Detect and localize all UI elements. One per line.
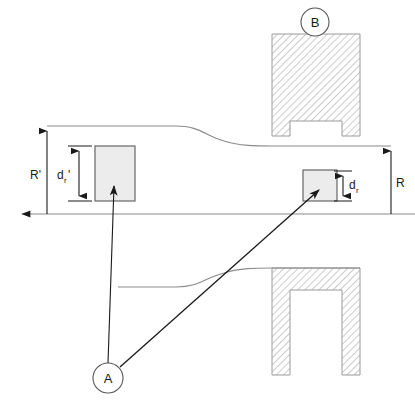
dimension-dr-prime-sublabel: r xyxy=(64,176,67,185)
profile-upper-wall xyxy=(47,126,391,146)
dimension-dr: d r xyxy=(334,171,359,201)
callout-a[interactable]: A xyxy=(93,363,123,393)
callout-b[interactable]: B xyxy=(301,8,329,36)
dimension-dr-label: d xyxy=(349,178,356,192)
dimension-r-prime-label: R' xyxy=(30,168,41,182)
measurement-boxes-group xyxy=(95,146,337,201)
dimension-r-label: R xyxy=(396,176,405,190)
dimension-r: R xyxy=(391,151,405,214)
hatched-solids-group xyxy=(272,34,360,375)
nozzle-cross-section-diagram: R' d r ' d r R xyxy=(0,0,415,407)
dimension-r-prime: R' xyxy=(30,131,47,214)
dimension-dr-prime: d r ' xyxy=(57,146,92,201)
callout-a-label: A xyxy=(104,371,113,386)
solid-upper-shroud xyxy=(272,34,360,136)
dimension-dr-prime-prime-mark: ' xyxy=(68,168,70,182)
dimension-dr-prime-label: d xyxy=(57,168,64,182)
dimension-dr-sublabel: r xyxy=(356,186,359,195)
box-upstream xyxy=(95,146,135,201)
diagram-canvas: R' d r ' d r R xyxy=(0,0,415,407)
solid-lower-shroud xyxy=(272,268,360,375)
leader-a-to-upstream-box xyxy=(108,186,114,363)
box-downstream xyxy=(303,170,337,201)
callout-b-label: B xyxy=(311,15,320,30)
